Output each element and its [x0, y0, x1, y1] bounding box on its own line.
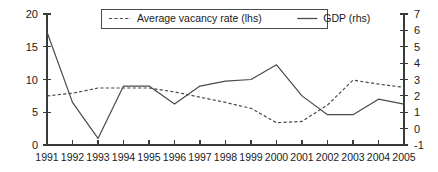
right-axis-tick-label: 5	[414, 41, 420, 53]
right-axis-tick-label: 0	[414, 123, 420, 135]
chart-container: 05101520-1012345671991199219931994199519…	[0, 0, 438, 172]
x-axis-tick-label: 1999	[239, 151, 263, 163]
x-axis-tick-label: 1998	[214, 151, 238, 163]
right-axis-tick-label: 1	[414, 106, 420, 118]
series-line-vacancy-rate	[47, 80, 404, 123]
x-axis-tick-label: 1992	[61, 151, 85, 163]
x-axis-tick-label: 2000	[265, 151, 289, 163]
right-axis-tick-label: -1	[414, 139, 424, 151]
right-axis-tick-label: 3	[414, 74, 420, 86]
right-axis-tick-label: 6	[414, 24, 420, 36]
left-axis-tick-label: 0	[32, 139, 38, 151]
x-axis-tick-label: 2001	[290, 151, 314, 163]
chart-legend: Average vacancy rate (lhs)GDP (rhs)	[101, 9, 370, 28]
x-axis-tick-label: 1997	[188, 151, 212, 163]
right-axis-tick-label: 2	[414, 90, 420, 102]
x-axis-tick-label: 2002	[316, 151, 340, 163]
series-line-gdp	[47, 32, 404, 138]
x-axis-tick-label: 1996	[163, 151, 187, 163]
x-axis-tick-label: 2003	[341, 151, 365, 163]
left-axis-tick-label: 15	[26, 41, 38, 53]
x-axis-tick-label: 2005	[392, 151, 416, 163]
line-chart: 05101520-1012345671991199219931994199519…	[0, 0, 438, 172]
right-axis-tick-label: 7	[414, 8, 420, 20]
x-axis-tick-label: 1995	[137, 151, 161, 163]
left-axis-tick-label: 10	[26, 74, 38, 86]
x-axis-tick-label: 2004	[367, 151, 391, 163]
x-axis-tick-label: 1991	[35, 151, 59, 163]
left-axis-tick-label: 5	[32, 106, 38, 118]
legend-label-vacancy-rate: Average vacancy rate (lhs)	[137, 12, 262, 24]
legend-label-gdp: GDP (rhs)	[323, 12, 370, 24]
left-axis-tick-label: 20	[26, 8, 38, 20]
right-axis-tick-label: 4	[414, 57, 420, 69]
series-group	[47, 32, 404, 138]
x-axis-tick-label: 1994	[112, 151, 136, 163]
axes-group: 05101520-1012345671991199219931994199519…	[26, 8, 424, 163]
x-axis-tick-label: 1993	[86, 151, 110, 163]
